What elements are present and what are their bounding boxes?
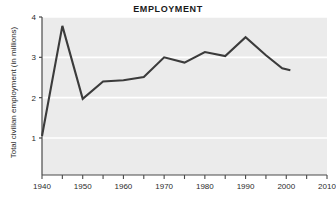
chart-container: EMPLOYMENT Total civilian employment (in… bbox=[0, 0, 336, 202]
x-tick-label: 1950 bbox=[74, 182, 92, 191]
x-tick-label: 2000 bbox=[277, 182, 295, 191]
y-tick-label: 2 bbox=[32, 94, 37, 103]
x-tick-label: 1960 bbox=[115, 182, 133, 191]
y-axis-ticks: 1234 bbox=[32, 13, 42, 143]
x-tick-label: 1990 bbox=[237, 182, 255, 191]
y-tick-label: 1 bbox=[32, 134, 37, 143]
x-tick-label: 1980 bbox=[196, 182, 214, 191]
y-tick-label: 4 bbox=[32, 13, 37, 22]
chart-plot: 1234 19401950196019701980199020002010 bbox=[0, 0, 336, 202]
y-tick-label: 3 bbox=[32, 53, 37, 62]
x-tick-label: 1940 bbox=[33, 182, 51, 191]
x-axis-ticks: 19401950196019701980199020002010 bbox=[33, 175, 336, 191]
x-tick-label: 2010 bbox=[318, 182, 336, 191]
x-tick-label: 1970 bbox=[155, 182, 173, 191]
